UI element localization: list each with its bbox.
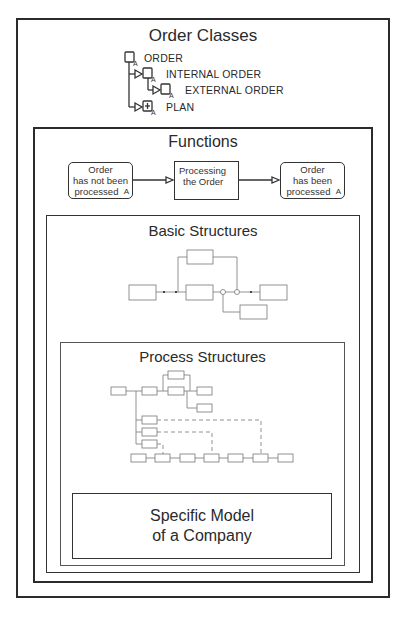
specific-model-line1: Specific Model <box>150 506 254 526</box>
specific-model-line2: of a Company <box>152 526 252 546</box>
specific-model-box: Specific Model of a Company <box>72 493 332 559</box>
